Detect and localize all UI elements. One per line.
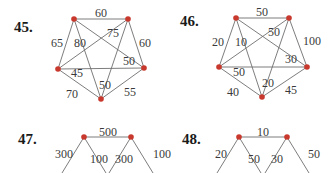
edge-weight-label: 45 bbox=[285, 83, 297, 97]
graph-vertex bbox=[128, 134, 134, 140]
edge-weight-label: 65 bbox=[51, 36, 63, 50]
edge-weight-label: 30 bbox=[271, 152, 283, 166]
edge-weight-label: 75 bbox=[107, 26, 119, 40]
graph-vertex bbox=[125, 16, 131, 22]
graph-vertex bbox=[81, 134, 87, 140]
edge-weight-label: 55 bbox=[124, 85, 136, 99]
edge-weight-label: 50 bbox=[308, 147, 320, 161]
edge-weight-label: 80 bbox=[74, 36, 86, 50]
graph-vertex bbox=[55, 66, 61, 72]
graph-vertex bbox=[216, 64, 222, 70]
edge-weight-label: 300 bbox=[115, 152, 133, 166]
edge-weight-label: 20 bbox=[215, 147, 227, 161]
graph-edge bbox=[74, 19, 101, 99]
edge-weight-label: 20 bbox=[262, 76, 274, 90]
edge-weight-label: 100 bbox=[303, 34, 321, 48]
graph-vertex bbox=[286, 15, 292, 21]
edge-weight-label: 60 bbox=[95, 6, 107, 20]
problem-number: 45. bbox=[14, 19, 33, 35]
edge-weight-label: 40 bbox=[227, 85, 239, 99]
edge-weight-label: 10 bbox=[257, 125, 269, 139]
graph-vertex bbox=[71, 16, 77, 22]
edge-weight-label: 45 bbox=[71, 66, 83, 80]
edge-weight-label: 50 bbox=[99, 78, 111, 92]
graph-edge bbox=[236, 18, 262, 97]
graph-vertex bbox=[259, 94, 265, 100]
edge-weight-label: 50 bbox=[123, 54, 135, 68]
problem-number: 46. bbox=[180, 13, 199, 29]
graph-diagrams: 6065807560504550705550201050100305020404… bbox=[0, 0, 335, 173]
edge-weight-label: 60 bbox=[139, 36, 151, 50]
edge-weight-label: 500 bbox=[99, 125, 117, 139]
edge-weight-label: 100 bbox=[90, 152, 108, 166]
edge-weight-label: 50 bbox=[248, 152, 260, 166]
edge-weight-label: 100 bbox=[153, 147, 171, 161]
problem-number: 47. bbox=[18, 131, 37, 147]
edge-weight-label: 30 bbox=[285, 52, 297, 66]
edge-weight-label: 50 bbox=[256, 5, 268, 19]
edge-weight-label: 300 bbox=[55, 147, 73, 161]
edge-weight-label: 50 bbox=[233, 65, 245, 79]
edge-weight-label: 70 bbox=[66, 87, 78, 101]
edge-weight-label: 10 bbox=[235, 35, 247, 49]
graph-vertex bbox=[233, 15, 239, 21]
graph-vertex bbox=[304, 64, 310, 70]
graph-vertex bbox=[284, 134, 290, 140]
graph-vertex bbox=[141, 65, 147, 71]
problem-number: 48. bbox=[182, 131, 201, 147]
edges-layer bbox=[58, 18, 309, 173]
graph-edge bbox=[287, 137, 309, 173]
edge-weight-label: 50 bbox=[268, 25, 280, 39]
edge-weight-label: 20 bbox=[212, 35, 224, 49]
graph-edge bbox=[131, 137, 153, 173]
graph-vertex bbox=[98, 96, 104, 102]
graph-vertex bbox=[236, 134, 242, 140]
